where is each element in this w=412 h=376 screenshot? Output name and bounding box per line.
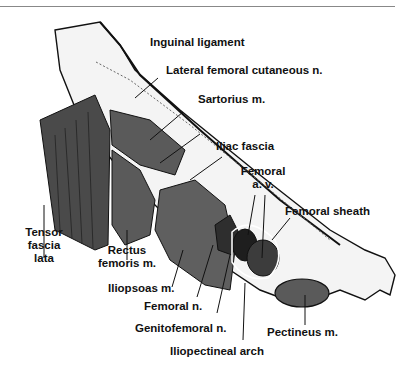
label-iliopectineal-arch: Iliopectineal arch [170, 345, 264, 358]
label-sartorius: Sartorius m. [198, 93, 265, 106]
label-femoral-sheath: Femoral sheath [285, 205, 370, 218]
pectineus-shape [275, 279, 329, 307]
label-femoral-av: Femoral a. v. [238, 165, 288, 191]
label-femoral-nerve: Femoral n. [144, 300, 202, 313]
anatomy-illustration [0, 0, 412, 376]
label-lateral-femoral-cutaneous-nerve: Lateral femoral cutaneous n. [166, 64, 323, 77]
label-genitofemoral-nerve: Genitofemoral n. [135, 322, 226, 335]
label-pectineus: Pectineus m. [267, 326, 338, 339]
label-iliac-fascia: Iliac fascia [216, 140, 274, 153]
label-inguinal-ligament: Inguinal ligament [150, 36, 245, 49]
label-iliopsoas: Iliopsoas m. [108, 282, 174, 295]
label-tensor-fascia-lata: Tensor fascia lata [20, 226, 68, 265]
label-rectus-femoris: Rectus femoris m. [92, 244, 162, 270]
